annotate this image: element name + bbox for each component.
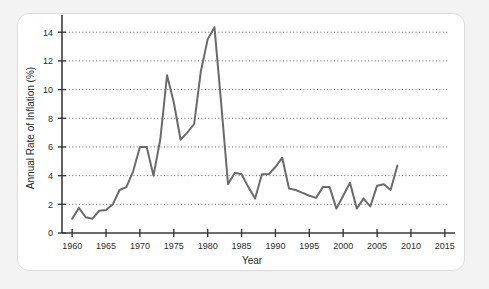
x-tick-label: 1960: [62, 241, 82, 251]
y-tick-label: 8: [48, 114, 53, 124]
inflation-line-chart: 02468101214 1960196519701975198019851990…: [0, 0, 489, 289]
x-tick-labels: 1960196519701975198019851990199520002005…: [62, 241, 455, 251]
x-tick-label: 2005: [367, 241, 387, 251]
figure-canvas: 02468101214 1960196519701975198019851990…: [0, 0, 489, 289]
y-tick-label: 0: [48, 228, 53, 238]
x-tick-label: 2015: [435, 241, 455, 251]
x-tick-label: 1965: [96, 241, 116, 251]
y-tick-label: 14: [43, 28, 53, 38]
x-tick-label: 1990: [265, 241, 285, 251]
data-line: [72, 27, 397, 218]
x-tick-label: 1970: [130, 241, 150, 251]
x-tick-label: 2010: [401, 241, 421, 251]
y-tick-label: 4: [48, 171, 53, 181]
y-tick-labels: 02468101214: [43, 28, 53, 239]
data-series-group: [72, 27, 397, 218]
gridlines: [62, 32, 449, 204]
x-tick-label: 1995: [299, 241, 319, 251]
y-axis: [58, 15, 66, 233]
y-tick-label: 2: [48, 200, 53, 210]
x-axis-title: Year: [242, 255, 263, 266]
x-axis: [62, 229, 455, 237]
x-tick-label: 1975: [164, 241, 184, 251]
y-tick-label: 12: [43, 56, 53, 66]
x-tick-label: 2000: [333, 241, 353, 251]
y-tick-label: 6: [48, 142, 53, 152]
x-tick-label: 1985: [232, 241, 252, 251]
x-tick-label: 1980: [198, 241, 218, 251]
y-axis-title: Annual Rate of Inflation (%): [25, 67, 36, 189]
y-tick-label: 10: [43, 85, 53, 95]
